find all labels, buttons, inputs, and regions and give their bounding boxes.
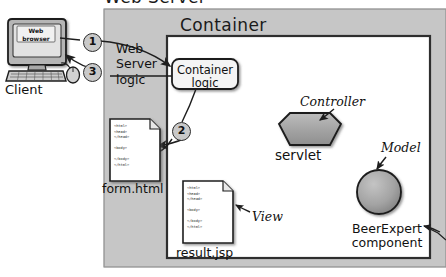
container-logic-label: Container logic [175,64,235,90]
client-label: Client [5,83,43,97]
result-jsp-label: result.jsp [176,246,233,259]
view-annotation: View [252,210,283,223]
browser-screen-label: Web browser [15,27,57,42]
model-annotation: Model [381,141,421,154]
controller-annotation: Controller [300,95,365,108]
form-html-code-snippet: <html> <head> </head> <body> </body> </h… [114,124,129,169]
result-jsp-code-snippet: <html> <head> </head> <body> </body> </h… [187,186,202,231]
container-title: Container [180,17,267,35]
form-html-label: form.html [102,182,164,195]
diagram-canvas: Web Server Container Web browser Client … [0,0,446,277]
servlet-hexagon [279,113,341,145]
step-number-1: 1 [83,33,102,52]
servlet-label: servlet [275,148,321,162]
web-server-title: Web Server [104,0,206,7]
step-number-3: 3 [83,63,102,82]
beer-expert-label: BeerExpert component [347,222,427,251]
step-number-2: 2 [172,122,191,141]
beer-expert-ball [357,170,401,214]
web-server-logic-label: Web Server logic [116,41,157,87]
